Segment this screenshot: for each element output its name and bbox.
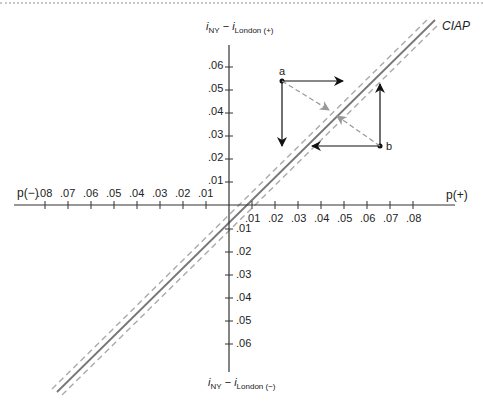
x-tick-pos-03: .03: [291, 212, 306, 224]
x-tick-neg-02: .02: [175, 187, 190, 199]
x-axis-right-label: p(+): [446, 188, 468, 202]
x-tick-pos-07: .07: [383, 212, 398, 224]
x-tick-pos-04: .04: [314, 212, 329, 224]
y-tick-neg-01: .01: [236, 222, 251, 234]
x-tick-neg-07: .07: [60, 187, 75, 199]
x-tick-pos-02: .02: [268, 212, 283, 224]
y-tick-pos-06: .06: [208, 59, 223, 71]
y-axis-top-label: iNY − iLondon (+): [206, 20, 274, 35]
x-tick-pos-06: .06: [360, 212, 375, 224]
y-tick-pos-03: .03: [208, 128, 223, 140]
x-tick-neg-03: .03: [152, 187, 167, 199]
x-tick-neg-06: .06: [83, 187, 98, 199]
x-tick-neg-05: .05: [106, 187, 121, 199]
y-tick-pos-01: .01: [208, 174, 223, 186]
y-tick-neg-04: .04: [236, 291, 251, 303]
y-tick-pos-04: .04: [208, 105, 223, 117]
y-tick-neg-03: .03: [236, 268, 251, 280]
y-axis-bottom-label: iNY − iLondon (−): [208, 376, 276, 391]
point-b-label: b: [386, 140, 392, 152]
x-tick-pos-05: .05: [337, 212, 352, 224]
y-tick-neg-02: .02: [236, 245, 251, 257]
x-tick-neg-04: .04: [129, 187, 144, 199]
y-tick-neg-05: .05: [236, 314, 251, 326]
x-tick-pos-08: .08: [406, 212, 421, 224]
y-tick-pos-02: .02: [208, 151, 223, 163]
x-tick-neg-08: .08: [37, 187, 52, 199]
y-tick-pos-05: .05: [208, 82, 223, 94]
y-tick-neg-06: .06: [236, 337, 251, 349]
x-axis-left-label: p(−): [17, 186, 39, 200]
ciap-diagram: CIAP iNY − iLondon (+) iNY − iLondon (−)…: [0, 0, 483, 402]
x-tick-neg-01: .01: [198, 187, 213, 199]
point-a-label: a: [279, 65, 285, 77]
ciap-label: CIAP: [442, 19, 470, 33]
